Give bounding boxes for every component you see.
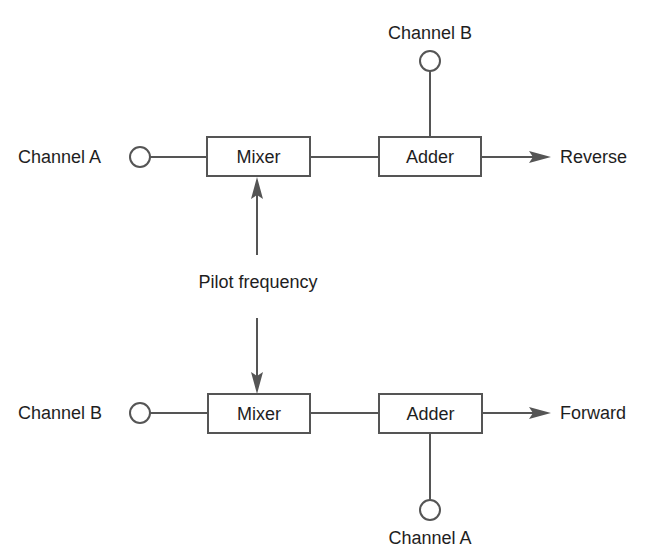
forward-input-port-icon: [130, 403, 150, 423]
reverse-input-port-icon: [130, 147, 150, 167]
reverse-input-label: Channel A: [18, 147, 101, 167]
pilot-frequency-label: Pilot frequency: [198, 272, 317, 292]
forward-adder-label: Adder: [406, 404, 454, 424]
forward-mixer-label: Mixer: [237, 404, 281, 424]
reverse-adder-input-label: Channel B: [388, 23, 472, 43]
reverse-path: Channel B Channel A Mixer Adder Reverse: [18, 23, 627, 176]
reverse-adder-label: Adder: [406, 147, 454, 167]
forward-adder-input-label: Channel A: [388, 528, 471, 548]
pilot-frequency: Pilot frequency: [198, 177, 317, 394]
forward-adder-input-port-icon: [420, 500, 440, 520]
forward-output-label: Forward: [560, 403, 626, 423]
block-diagram: Channel B Channel A Mixer Adder Reverse …: [0, 0, 649, 556]
forward-input-label: Channel B: [18, 403, 102, 423]
reverse-output-label: Reverse: [560, 147, 627, 167]
reverse-mixer-label: Mixer: [237, 147, 281, 167]
reverse-adder-input-port-icon: [420, 51, 440, 71]
forward-path: Channel B Mixer Adder Forward Channel A: [18, 394, 626, 548]
